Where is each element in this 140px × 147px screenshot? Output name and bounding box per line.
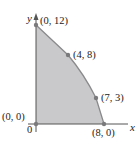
feasible-region (36, 25, 104, 124)
vertex-point (94, 96, 98, 100)
vertex-label: (8, 0) (92, 127, 115, 139)
vertex-label: (0, 12) (40, 15, 68, 27)
feasible-region-diagram: y x 0 (0, 0) (0, 12) (4, 8) (7, 3) (8, 0… (0, 0, 140, 147)
y-axis-arrow-icon (34, 13, 39, 20)
vertex-point (102, 122, 106, 126)
vertex-label: (0, 0) (2, 111, 25, 123)
vertex-point (34, 122, 38, 126)
vertex-label: (7, 3) (101, 92, 124, 104)
y-axis-label: y (26, 12, 32, 24)
origin-label: 0 (27, 124, 32, 135)
vertex-point (34, 23, 38, 27)
x-axis-label: x (129, 121, 135, 133)
vertex-point (66, 53, 70, 57)
vertex-label: (4, 8) (73, 49, 96, 61)
